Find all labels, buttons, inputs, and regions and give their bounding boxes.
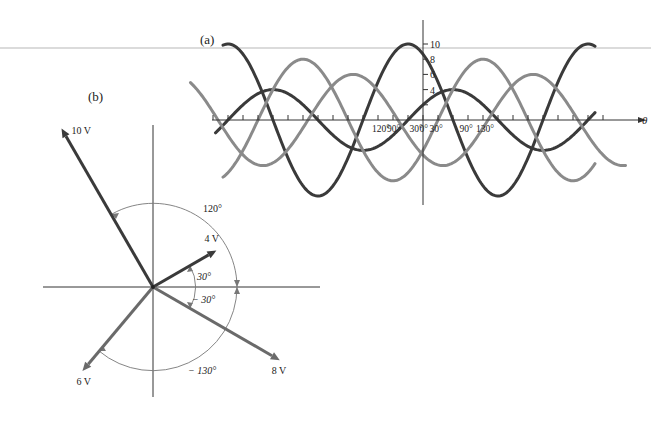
x-tick-label: 0° (420, 124, 429, 134)
theta-label: θ (642, 114, 648, 126)
x-tick-label: 130° (476, 124, 494, 134)
phasor-label: 10 V (72, 125, 92, 136)
angle-label-minus130: − 130° (188, 365, 216, 376)
panel-b-label: (b) (88, 89, 103, 104)
y-tick-label: 6 (430, 69, 435, 80)
phasor-label: 6 V (76, 376, 91, 387)
y-tick-label: 8 (430, 54, 435, 65)
angle-label-30: 30° (196, 271, 211, 282)
x-tick-label: 30° (430, 124, 444, 134)
arc-minus130-start-icon (234, 287, 240, 294)
y-tick-label: 10 (430, 39, 440, 50)
arc-120-start-icon (234, 280, 240, 287)
x-tick-label: 90° (460, 124, 474, 134)
origin-dot (151, 285, 155, 289)
angle-label-minus30: − 30° (192, 294, 215, 305)
phasor-6v (88, 287, 153, 364)
panel-a-label: (a) (200, 32, 214, 47)
phasor-10v (66, 136, 153, 287)
y-tick-label: 4 (430, 85, 435, 96)
x-tick-label: 90° (387, 124, 401, 134)
x-tick-labels: 120°90°30°0°30°90°130° (372, 124, 494, 134)
phasor-label: 4 V (204, 233, 219, 244)
angle-label-120: 120° (203, 203, 222, 214)
phasor-figure: (a) θ 10864 120°90°30°0°30°90°130° (b) 1… (0, 0, 651, 423)
phasor-label: 8 V (272, 365, 287, 376)
